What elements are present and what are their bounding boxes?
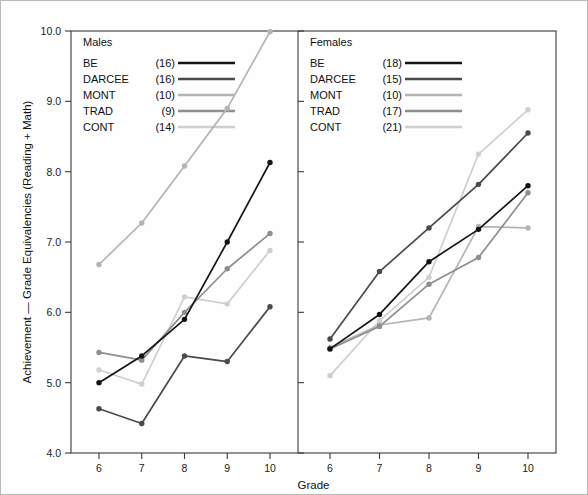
series-line-females-be <box>330 186 528 349</box>
panel-title-females: Females <box>310 36 353 48</box>
series-line-males-mont <box>99 32 270 265</box>
data-point-males-cont-grade-9 <box>225 301 230 306</box>
data-point-males-darcee-grade-7 <box>139 421 144 426</box>
legend-count-males-cont: (14) <box>155 121 175 133</box>
y-tick-label: 7.0 <box>46 236 61 248</box>
x-axis-title: Grade <box>298 479 330 491</box>
y-tick-label: 5.0 <box>46 377 61 389</box>
data-point-males-darcee-grade-9 <box>225 359 230 364</box>
data-point-males-trad-grade-9 <box>225 266 230 271</box>
data-point-males-be-grade-10 <box>267 160 272 165</box>
data-point-males-mont-grade-8 <box>182 163 187 168</box>
data-point-males-darcee-grade-6 <box>96 406 101 411</box>
legend-label-males-be: BE <box>83 57 98 69</box>
x-tick-label: 6 <box>96 462 102 474</box>
data-point-females-be-grade-7 <box>377 312 382 317</box>
data-point-females-cont-grade-9 <box>476 151 481 156</box>
legend-label-males-darcee: DARCEE <box>83 73 129 85</box>
legend-count-females-be: (18) <box>382 57 402 69</box>
data-point-males-be-grade-7 <box>139 353 144 358</box>
series-line-males-be <box>99 163 270 383</box>
data-point-males-mont-grade-7 <box>139 220 144 225</box>
y-tick-label: 8.0 <box>46 166 61 178</box>
data-point-females-trad-grade-8 <box>426 282 431 287</box>
legend-label-females-be: BE <box>310 57 325 69</box>
legend-count-females-cont: (21) <box>382 121 402 133</box>
y-axis-title: Achievement — Grade Equivalencies (Readi… <box>21 100 33 383</box>
legend-count-females-darcee: (15) <box>382 73 402 85</box>
x-tick-label: 9 <box>476 462 482 474</box>
x-tick-label: 8 <box>426 462 432 474</box>
data-point-males-trad-grade-6 <box>96 350 101 355</box>
y-tick-label: 9.0 <box>46 95 61 107</box>
legend-label-females-mont: MONT <box>310 89 343 101</box>
data-point-males-darcee-grade-8 <box>182 353 187 358</box>
data-point-females-be-grade-6 <box>327 346 332 351</box>
legend-label-females-cont: CONT <box>310 121 341 133</box>
data-point-females-trad-grade-9 <box>476 255 481 260</box>
data-point-females-darcee-grade-6 <box>327 336 332 341</box>
data-point-males-cont-grade-8 <box>182 294 187 299</box>
data-point-males-mont-grade-6 <box>96 262 101 267</box>
data-point-males-cont-grade-6 <box>96 367 101 372</box>
x-tick-label: 7 <box>139 462 145 474</box>
data-point-males-mont-grade-10 <box>267 29 272 34</box>
data-point-females-be-grade-9 <box>476 227 481 232</box>
legend-label-males-mont: MONT <box>83 89 116 101</box>
data-point-males-be-grade-9 <box>225 239 230 244</box>
legend-label-males-trad: TRAD <box>83 105 113 117</box>
legend-count-males-be: (16) <box>155 57 175 69</box>
legend-count-males-mont: (10) <box>155 89 175 101</box>
series-line-females-trad <box>330 193 528 349</box>
x-tick-label: 10 <box>522 462 534 474</box>
data-point-males-trad-grade-10 <box>267 231 272 236</box>
data-point-females-be-grade-10 <box>525 183 530 188</box>
series-line-males-darcee <box>99 307 270 424</box>
y-tick-label: 4.0 <box>46 447 61 459</box>
data-point-females-darcee-grade-9 <box>476 182 481 187</box>
data-point-males-cont-grade-10 <box>267 248 272 253</box>
data-point-males-mont-grade-9 <box>225 106 230 111</box>
legend-label-females-trad: TRAD <box>310 105 340 117</box>
screenshot-root: 4.05.06.07.08.09.010.0678910678910GradeA… <box>0 0 588 495</box>
data-point-males-cont-grade-7 <box>139 381 144 386</box>
legend-count-males-trad: (9) <box>162 105 175 117</box>
data-point-females-be-grade-8 <box>426 259 431 264</box>
data-point-females-trad-grade-10 <box>525 190 530 195</box>
data-point-females-cont-grade-10 <box>525 107 530 112</box>
data-point-females-cont-grade-8 <box>426 274 431 279</box>
chart-figure: 4.05.06.07.08.09.010.0678910678910GradeA… <box>1 1 587 494</box>
x-tick-label: 9 <box>224 462 230 474</box>
y-tick-label: 10.0 <box>41 25 62 37</box>
x-tick-label: 8 <box>182 462 188 474</box>
data-point-females-darcee-grade-10 <box>525 130 530 135</box>
data-point-males-darcee-grade-10 <box>267 304 272 309</box>
y-tick-label: 6.0 <box>46 306 61 318</box>
line-chart: 4.05.06.07.08.09.010.0678910678910GradeA… <box>1 1 588 495</box>
x-tick-label: 6 <box>327 462 333 474</box>
series-line-females-mont <box>330 227 528 348</box>
legend-count-females-mont: (10) <box>382 89 402 101</box>
data-point-males-be-grade-8 <box>182 317 187 322</box>
data-point-females-cont-grade-6 <box>327 373 332 378</box>
legend-count-males-darcee: (16) <box>155 73 175 85</box>
legend-label-females-darcee: DARCEE <box>310 73 356 85</box>
panel-title-males: Males <box>83 36 113 48</box>
data-point-females-trad-grade-7 <box>377 324 382 329</box>
data-point-females-darcee-grade-7 <box>377 269 382 274</box>
data-point-females-mont-grade-8 <box>426 315 431 320</box>
x-tick-label: 7 <box>377 462 383 474</box>
series-line-females-darcee <box>330 133 528 339</box>
legend-count-females-trad: (17) <box>382 105 402 117</box>
data-point-males-be-grade-6 <box>96 380 101 385</box>
data-point-females-darcee-grade-8 <box>426 225 431 230</box>
x-tick-label: 10 <box>264 462 276 474</box>
data-point-females-mont-grade-10 <box>525 225 530 230</box>
legend-label-males-cont: CONT <box>83 121 114 133</box>
